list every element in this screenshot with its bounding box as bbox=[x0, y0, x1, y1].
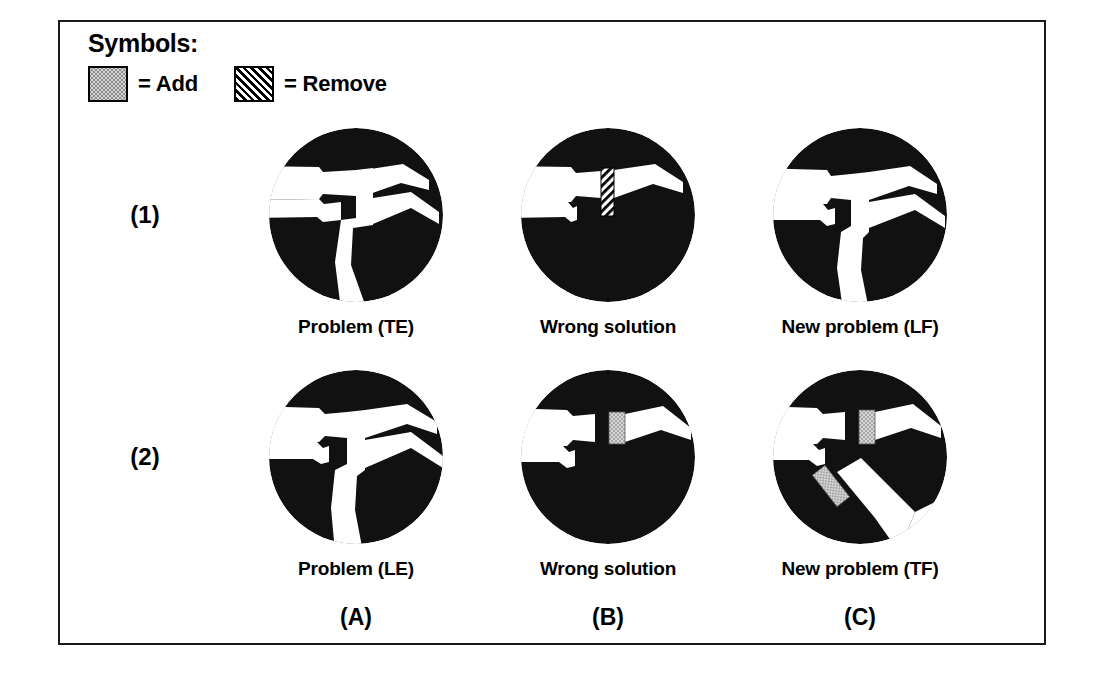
column-label-b: (B) bbox=[592, 604, 624, 630]
panel-2a-caption: Problem (LE) bbox=[298, 558, 414, 580]
legend-entry-add-label: = Add bbox=[138, 71, 198, 97]
panel-2c-caption: New problem (TF) bbox=[781, 558, 938, 580]
row-label-2: (2) bbox=[130, 443, 159, 471]
panel-1c: New problem (LF) bbox=[734, 120, 986, 338]
panel-row-2: (2) bbox=[60, 362, 1044, 604]
panel-2c-figure bbox=[765, 362, 955, 552]
panel-grid: (1) bbox=[60, 120, 1044, 604]
remove-mark-stem-1b bbox=[601, 168, 614, 216]
tooth-diagram-1b bbox=[513, 120, 703, 310]
panel-1c-figure bbox=[765, 120, 955, 310]
channel-horizontal-left-1a bbox=[261, 166, 356, 200]
panel-2a: Problem (LE) bbox=[230, 362, 482, 580]
legend-entry-remove-label: = Remove bbox=[284, 71, 387, 97]
panel-2c: New problem (TF) bbox=[734, 362, 986, 580]
panel-row-1: (1) bbox=[60, 120, 1044, 362]
panel-1b-figure bbox=[513, 120, 703, 310]
row-label-1: (1) bbox=[130, 201, 159, 229]
panel-1c-caption: New problem (LF) bbox=[781, 316, 938, 338]
tooth-diagram-2c bbox=[765, 362, 955, 552]
panel-1a-figure bbox=[261, 120, 451, 310]
add-mark-strip-vertical-2c bbox=[859, 410, 875, 444]
add-swatch-icon bbox=[88, 66, 128, 102]
legend-entry-add: = Add bbox=[88, 66, 198, 102]
legend-title: Symbols: bbox=[88, 30, 387, 58]
column-labels-spacer bbox=[60, 604, 230, 631]
tooth-diagram-2a bbox=[261, 362, 451, 552]
column-label-c: (C) bbox=[844, 604, 876, 630]
tooth-diagram-1c bbox=[765, 120, 955, 310]
column-label-a: (A) bbox=[340, 604, 372, 630]
column-label-c-cell: (C) bbox=[734, 604, 986, 631]
column-label-a-cell: (A) bbox=[230, 604, 482, 631]
column-label-b-cell: (B) bbox=[482, 604, 734, 631]
panel-1a-caption: Problem (TE) bbox=[298, 316, 414, 338]
figure-frame: Symbols: = Add = Remove (1) bbox=[58, 20, 1046, 645]
panel-1b-caption: Wrong solution bbox=[540, 316, 676, 338]
panel-2b-caption: Wrong solution bbox=[540, 558, 676, 580]
legend-entries: = Add = Remove bbox=[88, 66, 387, 102]
legend: Symbols: = Add = Remove bbox=[88, 30, 387, 102]
tooth-diagram-2b bbox=[513, 362, 703, 552]
remove-swatch-icon bbox=[234, 66, 274, 102]
panel-2a-figure bbox=[261, 362, 451, 552]
column-labels: (A) (B) (C) bbox=[60, 604, 1044, 631]
panel-1b: Wrong solution bbox=[482, 120, 734, 338]
panel-2b-figure bbox=[513, 362, 703, 552]
tooth-diagram-1a bbox=[261, 120, 451, 310]
row-label-1-cell: (1) bbox=[60, 120, 230, 310]
legend-entry-remove: = Remove bbox=[234, 66, 387, 102]
panel-1a: Problem (TE) bbox=[230, 120, 482, 338]
add-mark-strip-2b bbox=[609, 412, 625, 444]
panel-2b: Wrong solution bbox=[482, 362, 734, 580]
row-label-2-cell: (2) bbox=[60, 362, 230, 552]
